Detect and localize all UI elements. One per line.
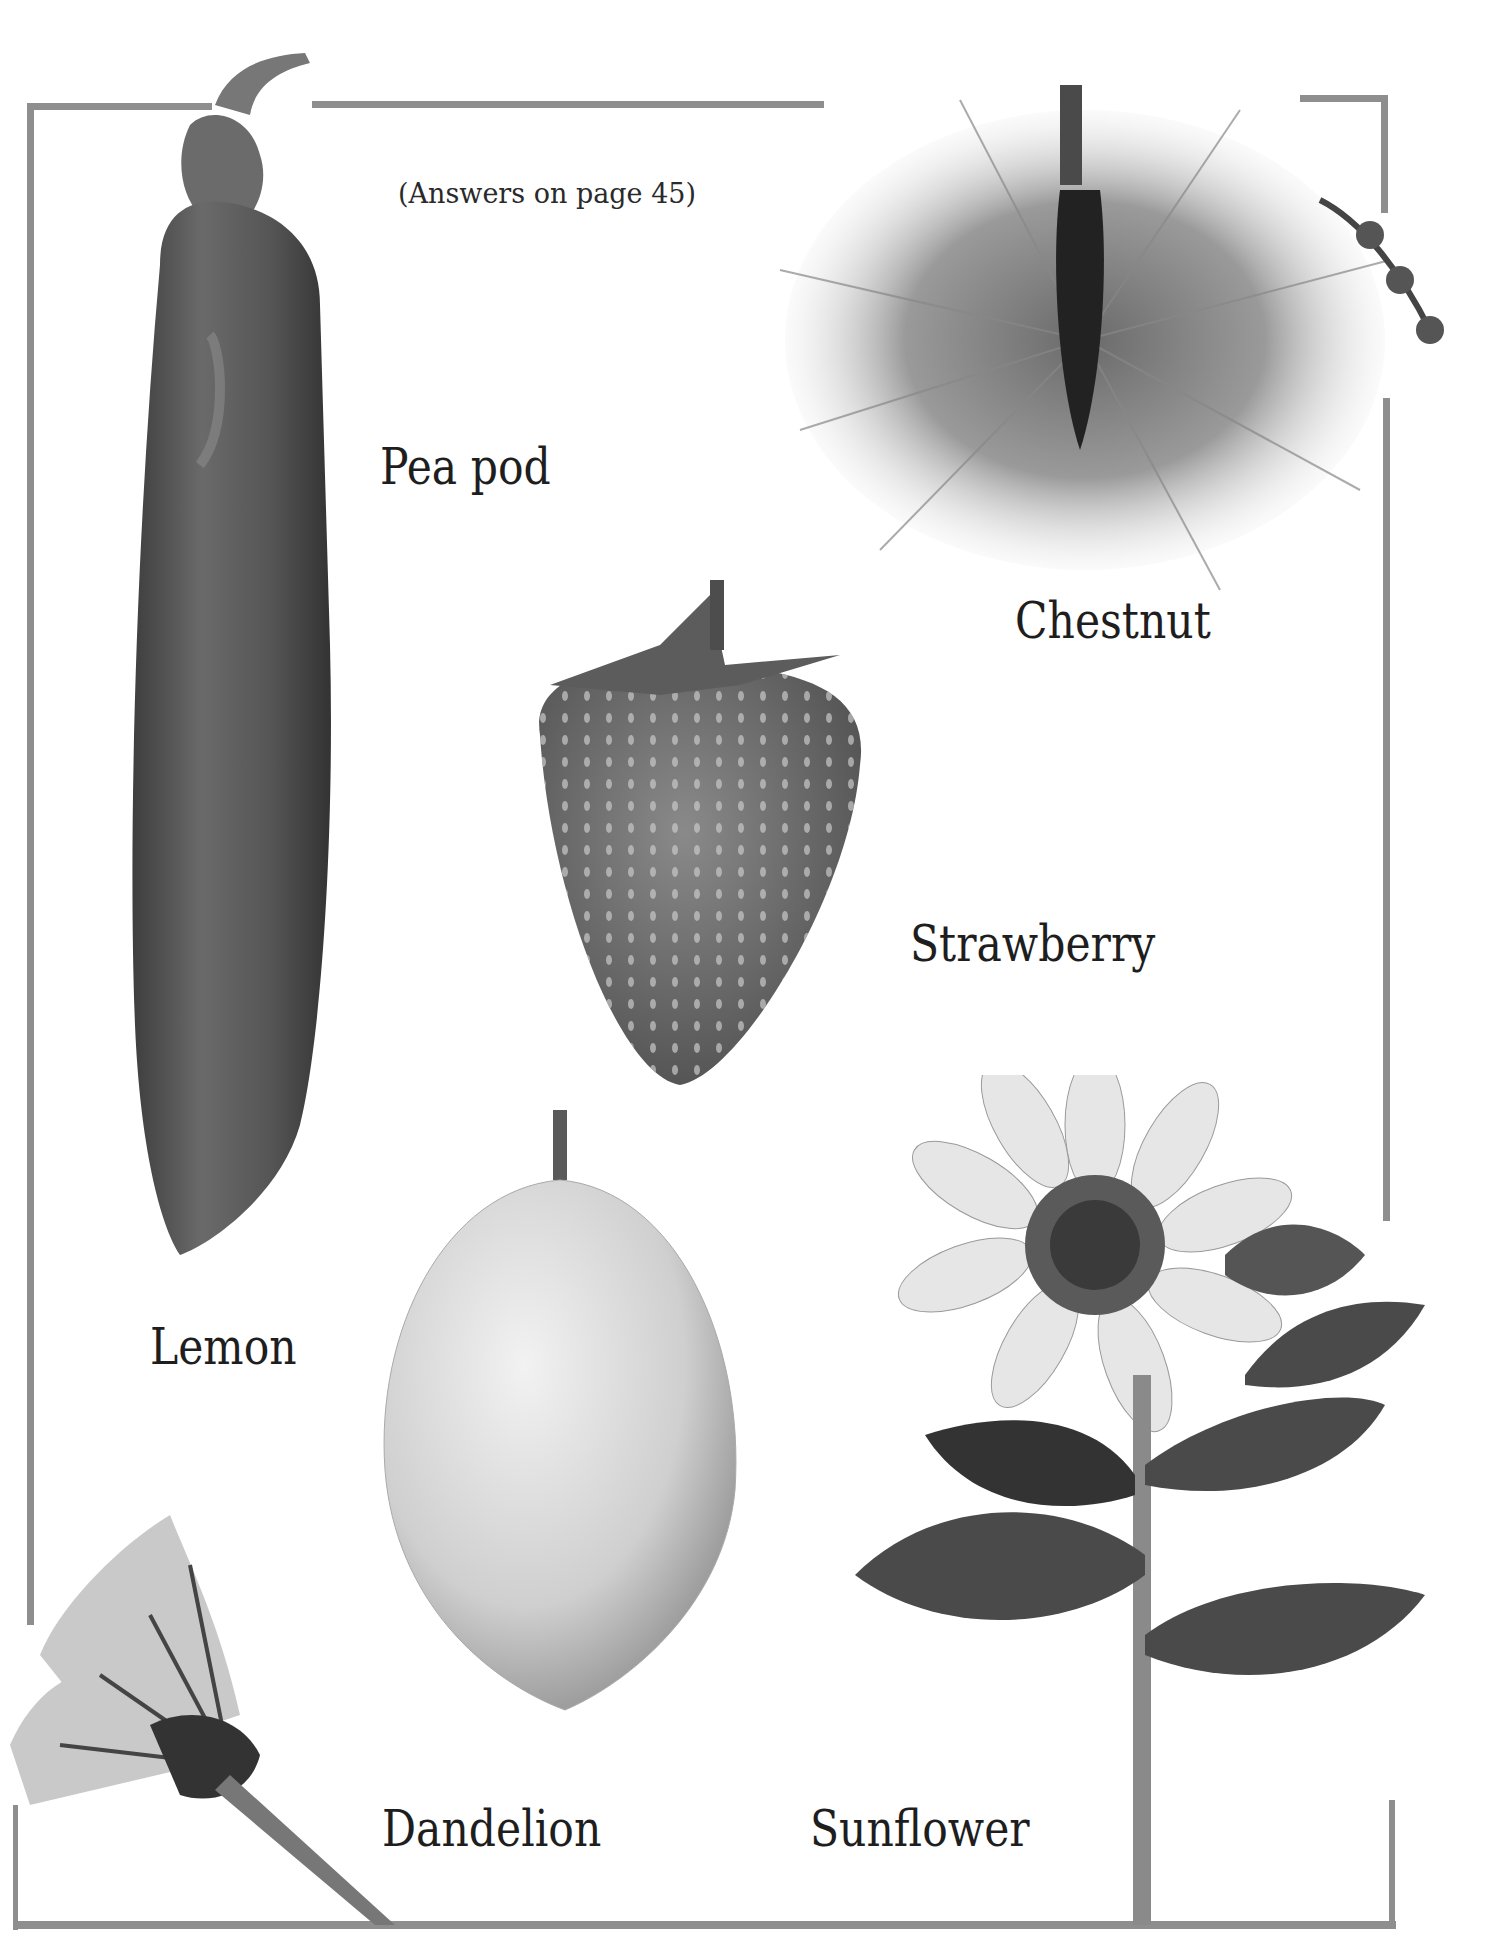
chestnut-photo <box>760 70 1460 610</box>
frame-top-middle <box>312 101 824 108</box>
lemon-photo <box>375 1110 750 1720</box>
lemon-label: Lemon <box>150 1318 297 1376</box>
frame-left <box>27 103 34 1625</box>
pea-pod-photo <box>120 45 360 1265</box>
dandelion-photo <box>0 1505 420 1925</box>
sunflower-label: Sunflower <box>810 1800 1030 1858</box>
chestnut-label: Chestnut <box>1015 592 1211 650</box>
answers-caption: (Answers on page 45) <box>398 178 696 209</box>
strawberry-label: Strawberry <box>910 915 1155 973</box>
sunflower-photo <box>845 1075 1475 1925</box>
pea-pod-label: Pea pod <box>380 438 551 496</box>
dandelion-label: Dandelion <box>382 1800 601 1858</box>
strawberry-photo <box>510 575 920 1095</box>
